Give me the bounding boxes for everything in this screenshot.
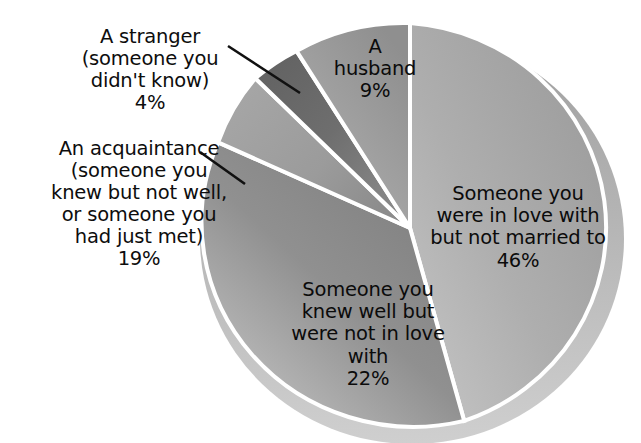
slice-label-knew-well-not-in-love: Someone you knew well but were not in lo…: [283, 279, 453, 390]
slice-label-in-love-not-married: Someone you were in love with but not ma…: [420, 183, 616, 272]
slice-label-husband: A husband 9%: [317, 36, 433, 103]
pie-chart: A stranger (someone you didn't know) 4% …: [0, 0, 641, 443]
slice-label-acquaintance: An acquaintance (someone you knew but no…: [8, 138, 270, 270]
slice-label-stranger: A stranger (someone you didn't know) 4%: [26, 26, 274, 114]
